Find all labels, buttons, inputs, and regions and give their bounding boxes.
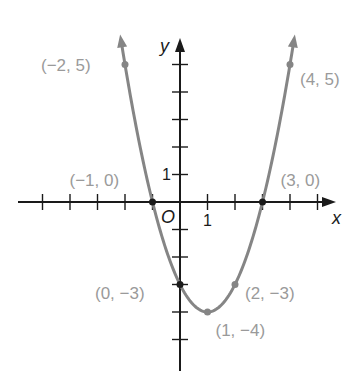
origin-label: O [161, 207, 175, 227]
data-point [287, 61, 294, 68]
point-label: (4, 5) [300, 70, 340, 89]
parabola-graph: (−2, 5)(−1, 0)(0, −3)(1, −4)(2, −3)(3, 0… [0, 0, 353, 387]
point-label: (−2, 5) [41, 56, 91, 75]
y-axis-label: y [158, 36, 170, 56]
point-label: (3, 0) [281, 171, 321, 190]
curve-arrowheads [117, 34, 298, 48]
data-point [259, 199, 266, 206]
data-point [204, 309, 211, 316]
point-label: (2, −3) [245, 284, 295, 303]
data-point [232, 281, 239, 288]
data-point [177, 281, 184, 288]
data-point [122, 61, 129, 68]
y-unit-label: 1 [162, 166, 171, 183]
point-label: (1, −4) [216, 321, 266, 340]
parabola-curve [122, 44, 294, 312]
x-unit-label: 1 [203, 212, 212, 229]
x-axis-label: x [331, 208, 342, 228]
data-point [149, 199, 156, 206]
labeled-points [122, 61, 294, 316]
point-labels: (−2, 5)(−1, 0)(0, −3)(1, −4)(2, −3)(3, 0… [41, 56, 340, 341]
axes [18, 38, 336, 371]
point-label: (0, −3) [95, 284, 145, 303]
point-label: (−1, 0) [70, 171, 120, 190]
